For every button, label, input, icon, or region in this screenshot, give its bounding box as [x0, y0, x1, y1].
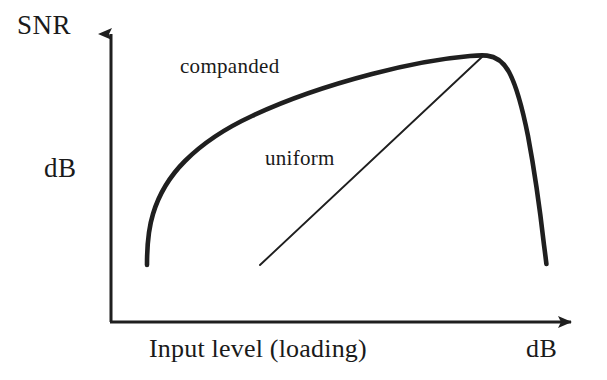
x-axis-unit-label: dB — [526, 336, 557, 362]
y-axis-title: SNR — [17, 12, 71, 39]
y-axis-unit-label: dB — [44, 155, 77, 182]
uniform-curve-label: uniform — [265, 148, 335, 169]
snr-vs-input-level-figure: SNR dB companded uniform Input level (lo… — [0, 0, 607, 380]
companded-series-curve — [147, 55, 546, 265]
companded-curve-label: companded — [180, 56, 280, 77]
x-axis-title: Input level (loading) — [149, 336, 367, 362]
plot-canvas — [0, 0, 607, 380]
